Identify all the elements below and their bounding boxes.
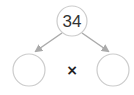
factor-tree-diagram: 34 × xyxy=(0,0,134,95)
root-node: 34 xyxy=(57,6,87,36)
left-factor-node[interactable] xyxy=(13,54,45,86)
left-arrow xyxy=(36,33,62,51)
root-value: 34 xyxy=(63,12,82,31)
right-factor-node[interactable] xyxy=(97,54,129,86)
right-arrow xyxy=(82,33,108,51)
multiply-sign: × xyxy=(66,62,78,78)
